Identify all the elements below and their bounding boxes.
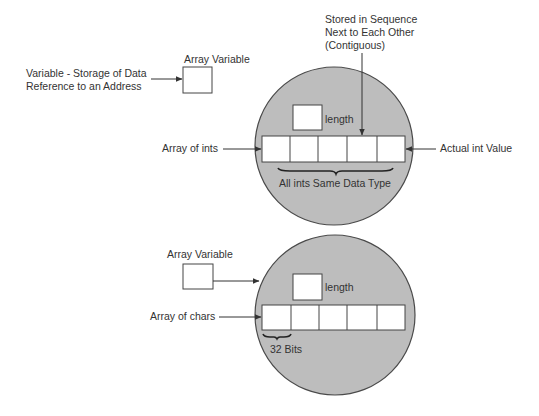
array-outline: [262, 136, 405, 162]
int-array-diagram: Array Variable Variable - Storage of Dat…: [26, 13, 512, 225]
array-outline: [262, 305, 405, 330]
char-array-diagram: Array Variable length Array of chars 32 …: [150, 235, 415, 395]
contiguous-note-line2: Next to Each Other: [325, 26, 415, 38]
contiguous-note-line1: Stored in Sequence: [325, 13, 417, 25]
int-array-cells: [262, 136, 405, 162]
length-label: length: [325, 281, 354, 293]
length-box: [293, 274, 322, 300]
array-variable-label: Array Variable: [184, 53, 250, 65]
same-data-type-label: All ints Same Data Type: [279, 177, 391, 189]
variable-note-line2: Reference to an Address: [26, 80, 142, 92]
variable-note-line1: Variable - Storage of Data: [26, 67, 147, 79]
array-variable-box: [183, 67, 212, 93]
char-array-cells: [262, 305, 405, 330]
array-of-chars-label: Array of chars: [150, 310, 215, 322]
contiguous-note-line3: (Contiguous): [325, 39, 385, 51]
array-of-ints-label: Array of ints: [162, 142, 218, 154]
length-label: length: [325, 113, 354, 125]
array-variable-label: Array Variable: [167, 248, 233, 260]
array-variable-box: [183, 264, 213, 289]
length-box: [293, 105, 322, 130]
actual-int-value-label: Actual int Value: [440, 142, 512, 154]
array-memory-diagram: Array Variable Variable - Storage of Dat…: [0, 0, 539, 416]
32-bits-label: 32 Bits: [270, 343, 302, 355]
